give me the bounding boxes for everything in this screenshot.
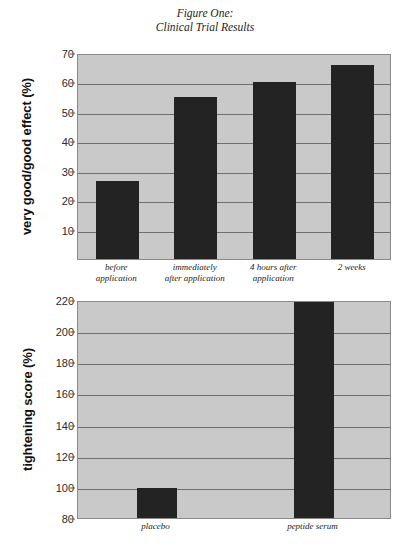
y-tick-mark	[70, 171, 75, 172]
y-tick-mark	[70, 301, 75, 302]
gridline	[78, 489, 390, 490]
x-axis-category-line: placebo	[141, 521, 170, 532]
gridline	[78, 364, 390, 365]
x-axis-category-line: immediately	[165, 262, 225, 273]
y-tick-mark	[70, 142, 75, 143]
y-tick-mark	[70, 425, 75, 426]
x-axis-category-line: peptide serum	[287, 521, 338, 532]
y-tick-mark	[70, 201, 75, 202]
figure-title-line-2: Clinical Trial Results	[0, 20, 410, 34]
x-axis-category-line: 2 weeks	[338, 262, 366, 273]
bar	[253, 82, 296, 259]
x-axis-category-label: immediatelyafter application	[165, 262, 225, 283]
gridline	[78, 395, 390, 396]
bar	[96, 181, 139, 259]
x-axis-category-line: before	[96, 262, 137, 273]
figure-title: Figure One: Clinical Trial Results	[0, 6, 410, 34]
y-axis-title-text: tightening score (%)	[20, 348, 35, 471]
plot-area-clinical-effect	[77, 54, 391, 260]
y-tick-mark	[70, 332, 75, 333]
y-tick-mark	[70, 394, 75, 395]
y-tick-mark	[70, 230, 75, 231]
y-tick-mark	[70, 519, 75, 520]
y-tick-mark	[70, 456, 75, 457]
chart-clinical-effect: very good/good effect (%) 10203040506070…	[0, 44, 410, 290]
x-axis-category-label: placebo	[141, 521, 170, 532]
x-axis-category-label: 4 hours afterapplication	[250, 262, 297, 283]
y-axis-title-tightening-score: tightening score (%)	[14, 296, 40, 522]
x-axis-category-label: 2 weeks	[338, 262, 366, 273]
x-axis-category-line: after application	[165, 273, 225, 284]
x-axis-category-line: application	[96, 273, 137, 284]
figure-title-line-1: Figure One:	[0, 6, 410, 20]
plot-area-tightening-score	[77, 301, 391, 519]
y-axis-title-clinical-effect: very good/good effect (%)	[14, 48, 40, 264]
x-axis-category-line: application	[250, 273, 297, 284]
x-axis-category-label: beforeapplication	[96, 262, 137, 283]
bar	[174, 97, 217, 259]
y-tick-mark	[70, 83, 75, 84]
y-axis-title-text: very good/good effect (%)	[20, 77, 35, 234]
y-tick-mark	[70, 112, 75, 113]
y-tick-mark	[70, 363, 75, 364]
x-axis-category-label: peptide serum	[287, 521, 338, 532]
y-tick-mark	[70, 487, 75, 488]
bar	[294, 301, 334, 518]
gridline	[78, 333, 390, 334]
chart-tightening-score: tightening score (%) 8010012014016018020…	[0, 292, 410, 542]
y-tick-mark	[70, 54, 75, 55]
gridline	[78, 427, 390, 428]
bar	[137, 488, 177, 518]
bar	[331, 65, 374, 259]
gridline	[78, 458, 390, 459]
x-axis-category-line: 4 hours after	[250, 262, 297, 273]
